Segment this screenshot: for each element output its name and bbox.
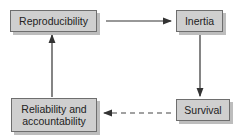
node-reproducibility: Reproducibility <box>10 10 97 32</box>
node-label: Reproducibility <box>19 15 88 27</box>
node-reliability: Reliability and accountability <box>11 98 97 132</box>
node-label: Reliability and accountability <box>16 103 92 127</box>
node-label: Survival <box>184 104 221 116</box>
node-inertia: Inertia <box>176 10 223 32</box>
node-survival: Survival <box>176 99 230 121</box>
node-label: Inertia <box>185 15 214 27</box>
